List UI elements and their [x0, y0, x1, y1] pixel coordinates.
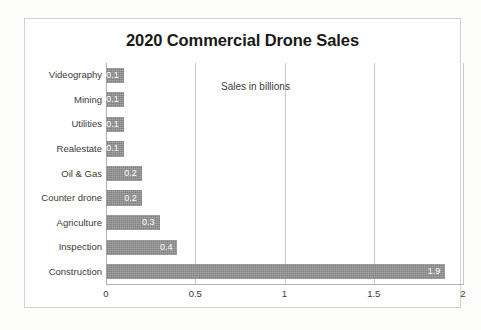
bar-row: 0.3 [106, 215, 463, 230]
bar-series: 0.10.10.10.10.20.20.30.41.9 [106, 63, 463, 284]
gridline-2 [463, 63, 464, 284]
category-label-realestate: Realestate [57, 144, 102, 154]
bar-utilities[interactable]: 0.1 [106, 117, 124, 132]
bar-row: 0.1 [106, 141, 463, 156]
x-axis-line [106, 284, 464, 285]
bar-row: 0.2 [106, 190, 463, 205]
bar-row: 0.1 [106, 92, 463, 107]
x-tick-label-0: 0 [103, 289, 108, 299]
category-axis-labels: VideographyMiningUtilitiesRealestateOil … [33, 63, 102, 284]
bar-realestate[interactable]: 0.1 [106, 141, 124, 156]
chart-title: 2020 Commercial Drone Sales [25, 31, 460, 50]
x-tick-label-2: 2 [460, 289, 465, 299]
category-label-agriculture: Agriculture [57, 218, 102, 228]
bar-value-label: 0.1 [106, 71, 124, 80]
bar-oil-gas[interactable]: 0.2 [106, 166, 142, 181]
bar-value-label: 0.2 [124, 194, 142, 203]
category-label-construction: Construction [49, 267, 102, 277]
x-tick-label-1: 1 [282, 289, 287, 299]
bar-value-label: 1.9 [428, 267, 446, 276]
x-tick-label-1.5: 1.5 [367, 289, 380, 299]
bar-value-label: 0.4 [160, 243, 178, 252]
bar-value-label: 0.1 [106, 95, 124, 104]
x-axis-tick-labels: 00.511.52 [106, 289, 463, 305]
category-label-mining: Mining [74, 95, 102, 105]
category-label-oil-gas: Oil & Gas [61, 169, 102, 179]
bar-value-label: 0.1 [106, 144, 124, 153]
x-tick-label-0.5: 0.5 [189, 289, 202, 299]
bar-value-label: 0.3 [142, 218, 160, 227]
bar-counter-drone[interactable]: 0.2 [106, 190, 142, 205]
plot-area: 0.10.10.10.10.20.20.30.41.9 [106, 63, 463, 284]
bar-row: 0.1 [106, 117, 463, 132]
chart-annotation: Sales in billions [221, 81, 290, 92]
bar-value-label: 0.1 [106, 120, 124, 129]
bar-inspection[interactable]: 0.4 [106, 240, 177, 255]
bar-mining[interactable]: 0.1 [106, 92, 124, 107]
category-label-inspection: Inspection [59, 242, 102, 252]
bar-agriculture[interactable]: 0.3 [106, 215, 160, 230]
bar-row: 0.4 [106, 240, 463, 255]
bar-row: 0.2 [106, 166, 463, 181]
bar-videography[interactable]: 0.1 [106, 68, 124, 83]
category-label-counter-drone: Counter drone [41, 193, 102, 203]
bar-construction[interactable]: 1.9 [106, 264, 445, 279]
chart-container: 2020 Commercial Drone Sales VideographyM… [24, 18, 461, 308]
bar-value-label: 0.2 [124, 169, 142, 178]
category-label-videography: Videography [49, 70, 102, 80]
bar-row: 1.9 [106, 264, 463, 279]
category-label-utilities: Utilities [71, 119, 102, 129]
